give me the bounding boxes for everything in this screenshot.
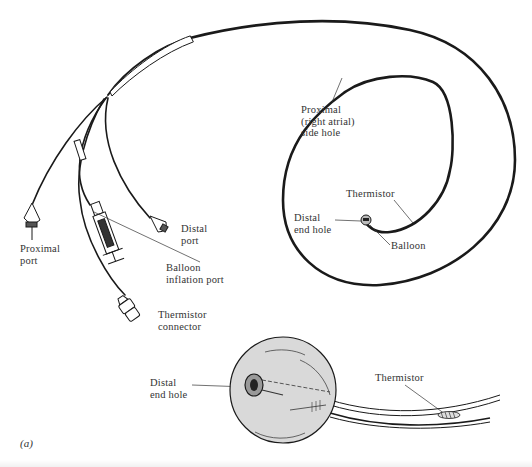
distal-port-line <box>106 98 150 218</box>
label-thermistor-detail: Thermistor <box>375 372 424 384</box>
label-balloon-inflation-port: Balloon inflation port <box>166 262 224 285</box>
label-distal-end-hole-detail: Distal end hole <box>150 377 187 400</box>
catheter-inner-loop <box>345 76 453 232</box>
label-distal-end-hole-top: Distal end hole <box>294 212 331 235</box>
label-thermistor-top: Thermistor <box>346 188 395 200</box>
detail-balloon-view <box>230 337 500 443</box>
label-thermistor-connector: Thermistor connector <box>158 309 207 332</box>
figure-label: (a) <box>20 437 33 449</box>
label-proximal-port: Proximal port <box>20 243 60 266</box>
thermistor-connector-plug <box>115 293 141 322</box>
label-balloon: Balloon <box>391 240 426 252</box>
catheter-outer-loop <box>190 21 515 285</box>
catheter-illustration <box>0 0 532 467</box>
catheter-diagram: Proximal port Distal port Balloon inflat… <box>0 0 532 467</box>
catheter-tip-balloon <box>361 215 371 225</box>
label-proximal-side-hole: Proximal (right atrial) side hole <box>301 104 355 139</box>
distal-port-connector <box>150 216 168 232</box>
syringe-icon <box>85 199 126 264</box>
proximal-port-connector <box>24 203 40 240</box>
label-distal-port: Distal port <box>181 223 207 246</box>
caption-strip <box>0 460 532 467</box>
